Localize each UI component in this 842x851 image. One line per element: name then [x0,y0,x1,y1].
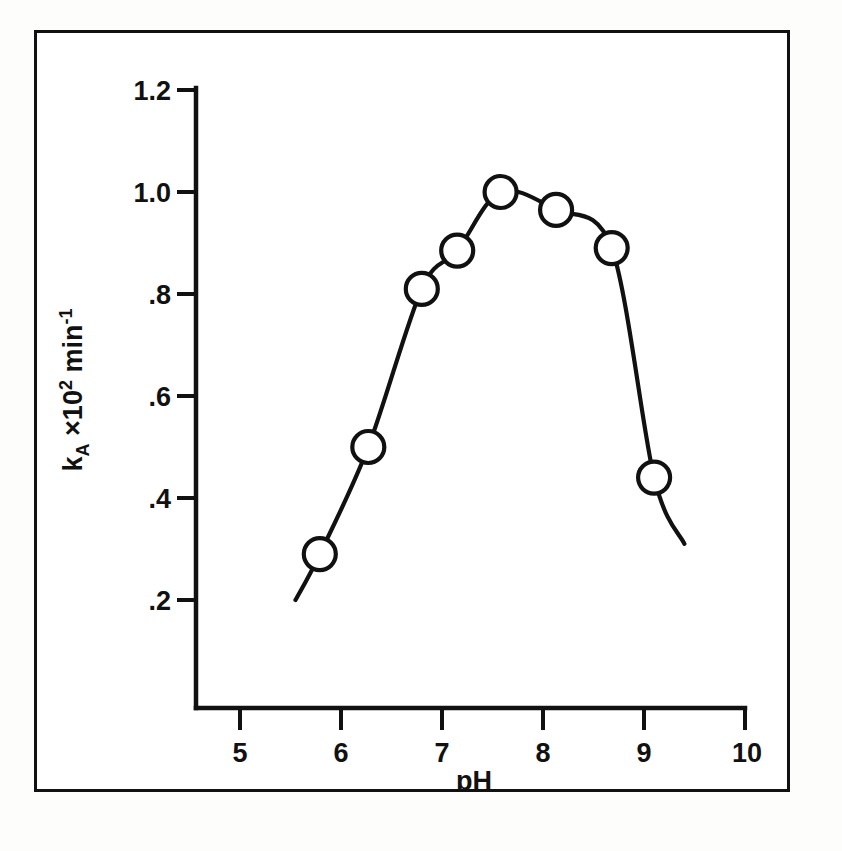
x-tick-label-6: 6 [333,738,348,768]
data-point-marker [638,462,670,494]
y-tick-label-0-4: .4 [148,484,171,514]
y-axis-title-subscript: A [73,443,93,456]
x-tick-label-7: 7 [434,738,449,768]
data-point-marker [304,538,336,570]
x-tick-label-5: 5 [232,738,247,768]
y-axis-title-multiplier-exponent: 2 [56,380,76,390]
x-tick-label-9: 9 [636,738,651,768]
y-axis-title-unit-exponent: -1 [56,309,76,325]
ph-rate-profile-chart: 1.2 1.0 .8 .6 .4 .2 5 6 7 8 9 10 pH [34,30,790,792]
y-axis-title-symbol: k [58,455,88,471]
x-tick-label-10: 10 [732,738,762,768]
x-tick-label-8: 8 [535,738,550,768]
y-tick-label-1-0: 1.0 [133,178,171,208]
data-markers [304,176,670,570]
data-point-marker [441,235,473,267]
y-axis-tick-labels: 1.2 1.0 .8 .6 .4 .2 [133,76,171,616]
y-axis-title: kA ×102 min-1 [56,309,93,472]
y-tick-label-0-6: .6 [148,382,171,412]
data-point-marker [352,431,384,463]
y-tick-label-0-8: .8 [148,280,171,310]
figure-page: 1.2 1.0 .8 .6 .4 .2 5 6 7 8 9 10 pH [0,0,842,851]
y-tick-label-1-2: 1.2 [133,76,171,106]
y-tick-label-0-2: .2 [148,586,171,616]
data-point-marker [596,232,628,264]
data-point-marker [406,273,438,305]
y-axis-ticks [177,90,196,600]
data-point-marker [540,194,572,226]
svg-text:kA ×102 min-1: kA ×102 min-1 [56,309,93,472]
y-axis-title-unit: min [58,325,88,373]
x-axis-title: pH [456,766,492,792]
y-axis-title-multiplier: ×10 [58,390,88,436]
x-axis-tick-labels: 5 6 7 8 9 10 [232,738,762,768]
data-point-marker [485,176,517,208]
x-axis-ticks [240,708,745,730]
